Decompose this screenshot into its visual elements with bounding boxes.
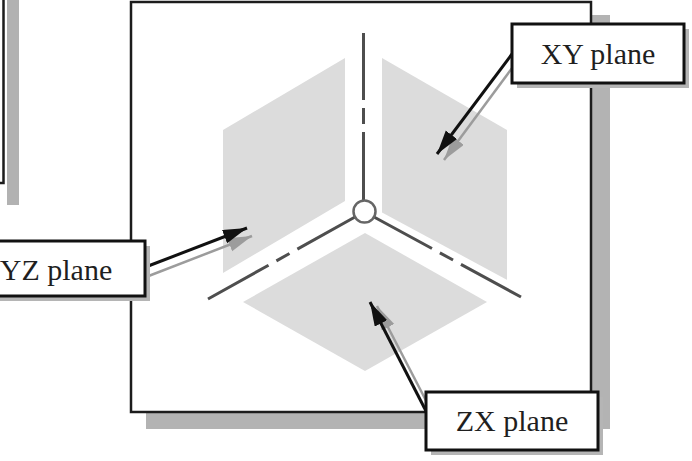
figure-canvas: XY plane YZ plane ZX plane (0, 0, 692, 461)
zx-label-text: ZX plane (456, 404, 568, 437)
previous-figure-shadow (7, 0, 19, 205)
yz-label-text: YZ plane (0, 253, 112, 286)
origin-circle (354, 201, 376, 223)
datum-planes-diagram: XY plane YZ plane ZX plane (0, 0, 692, 461)
previous-figure-border (0, 0, 4, 183)
xy-label-text: XY plane (541, 37, 656, 70)
